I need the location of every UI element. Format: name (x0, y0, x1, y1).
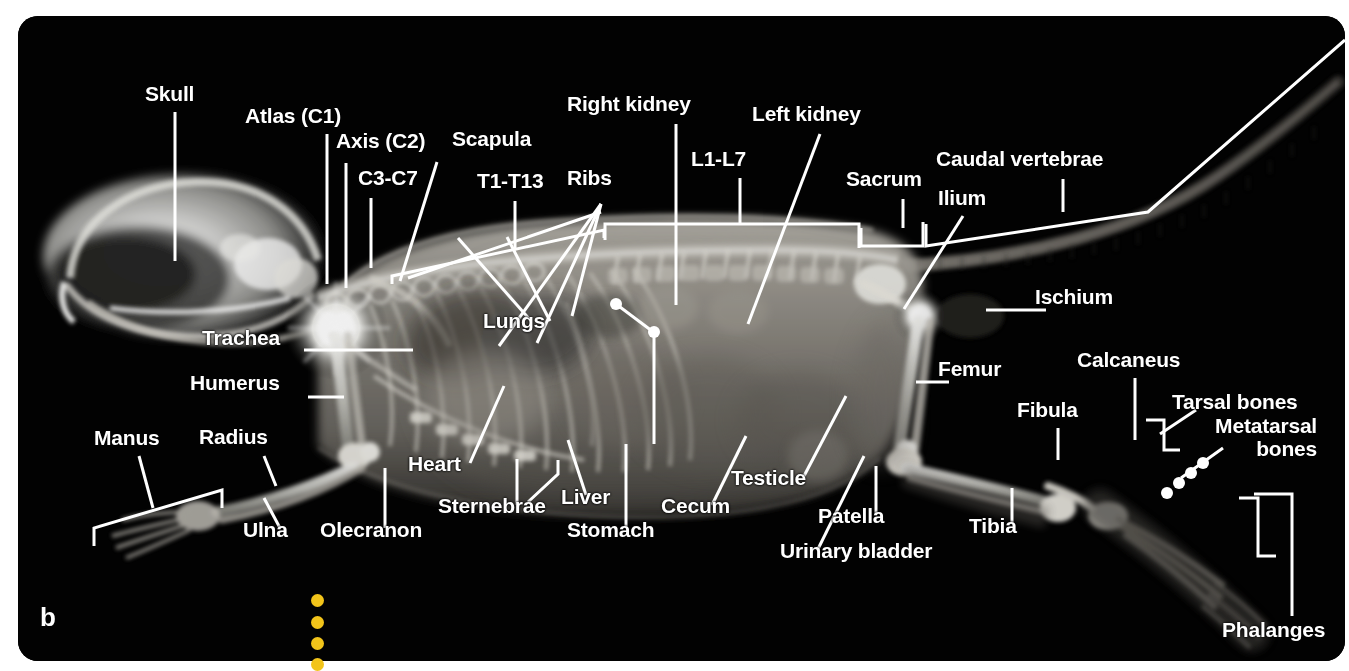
label-patella: Patella (818, 504, 884, 527)
label-phalanges: Phalanges (1222, 618, 1325, 641)
label-calcaneus: Calcaneus (1077, 348, 1180, 371)
label-olecranon: Olecranon (320, 518, 422, 541)
label-liver: Liver (561, 485, 610, 508)
label-ribs: Ribs (567, 166, 612, 189)
label-t1-t13: T1-T13 (477, 169, 544, 192)
label-sternebrae: Sternebrae (438, 494, 546, 517)
label-heart: Heart (408, 452, 461, 475)
label-radius: Radius (199, 425, 268, 448)
panel-letter: b (40, 602, 56, 633)
label-caudal-vertebrae: Caudal vertebrae (936, 147, 1103, 170)
label-femur: Femur (938, 357, 1001, 380)
label-tibia: Tibia (969, 514, 1017, 537)
label-ilium: Ilium (938, 186, 986, 209)
label-manus: Manus (94, 426, 160, 449)
label-testicle: Testicle (731, 466, 806, 489)
marker-dot-3 (311, 637, 324, 650)
label-cecum: Cecum (661, 494, 730, 517)
label-tarsal-bones: Tarsal bones (1172, 390, 1298, 413)
label-stomach: Stomach (567, 518, 654, 541)
label-right-kidney: Right kidney (567, 92, 691, 115)
label-fibula: Fibula (1017, 398, 1078, 421)
marker-dot-4 (311, 658, 324, 671)
figure-root: b Skull Atlas (C1) Axis (C2) C3-C7 Scapu… (0, 0, 1349, 671)
label-ischium: Ischium (1035, 285, 1113, 308)
label-left-kidney: Left kidney (752, 102, 861, 125)
label-sacrum: Sacrum (846, 167, 922, 190)
label-atlas-c1: Atlas (C1) (245, 104, 341, 127)
label-humerus: Humerus (190, 371, 280, 394)
label-axis-c2: Axis (C2) (336, 129, 425, 152)
label-metatarsal-bones: Metatarsal bones (1152, 414, 1317, 460)
marker-dot-1 (311, 594, 324, 607)
marker-dot-2 (311, 616, 324, 629)
label-trachea: Trachea (202, 326, 280, 349)
label-c3-c7: C3-C7 (358, 166, 418, 189)
label-ulna: Ulna (243, 518, 288, 541)
label-l1-l7: L1-L7 (691, 147, 746, 170)
label-urinary-bladder: Urinary bladder (780, 539, 932, 562)
label-scapula: Scapula (452, 127, 531, 150)
label-lungs: Lungs (483, 309, 545, 332)
label-skull: Skull (145, 82, 194, 105)
